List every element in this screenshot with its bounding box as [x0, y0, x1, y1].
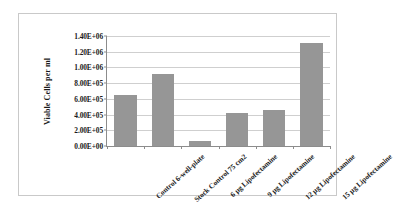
bar-slot [181, 36, 218, 146]
bar-slot [107, 36, 144, 146]
y-axis-tick-label: 8.00E+05 [74, 79, 103, 88]
x-axis-tick-mark [144, 146, 145, 149]
bar [114, 95, 136, 146]
bar-slot [219, 36, 256, 146]
bar-slot [256, 36, 293, 146]
y-axis-tick-label: 0.00E+00 [74, 142, 103, 151]
y-axis-tick-label: 1.40E+06 [74, 32, 103, 41]
y-axis-tick-label: 1.00E+06 [74, 63, 103, 72]
y-axis-tick-label: 4.00E+05 [74, 110, 103, 119]
chart-frame: Viable Cells per ml 0.00E+002.00E+054.00… [18, 13, 337, 196]
x-axis-tick-mark [107, 146, 108, 149]
y-axis-tick-label: 6.00E+05 [74, 94, 103, 103]
bar [226, 113, 248, 146]
bar [263, 110, 285, 146]
x-axis-tick-mark [293, 146, 294, 149]
x-axis-tick-mark [256, 146, 257, 149]
bar [189, 141, 211, 147]
y-axis-title: Viable Cells per ml [41, 36, 53, 147]
y-axis-tick-label: 2.00E+05 [74, 126, 103, 135]
bar-slot [144, 36, 181, 146]
bar-slot [293, 36, 330, 146]
x-axis-tick-mark [330, 146, 331, 149]
bar [300, 43, 322, 146]
y-axis-tick-label: 1.20E+06 [74, 47, 103, 56]
plot-area: 0.00E+002.00E+054.00E+056.00E+058.00E+05… [106, 36, 330, 147]
x-axis-tick-mark [181, 146, 182, 149]
x-axis-tick-mark [219, 146, 220, 149]
bar [152, 74, 174, 146]
